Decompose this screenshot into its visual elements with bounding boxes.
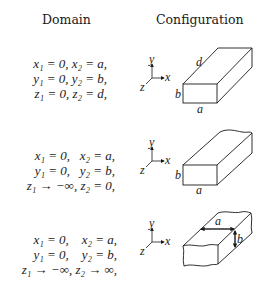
- y-axis-label: y: [148, 216, 155, 230]
- axes-icon-2: [146, 147, 164, 167]
- axes-icon-1: [146, 64, 164, 84]
- label-d: d: [196, 55, 203, 69]
- z-axis-label: z: [139, 244, 145, 258]
- label-a: a: [196, 183, 202, 197]
- semi-infinite-box-diagram: [183, 130, 252, 185]
- y-axis-label: y: [148, 52, 155, 66]
- axes-icon-3: [146, 228, 164, 248]
- x-axis-label: x: [164, 70, 171, 84]
- finite-box-diagram: [183, 48, 252, 103]
- label-b: b: [237, 232, 243, 246]
- configuration-diagrams: y x z d b a y x z b a y x z: [0, 0, 267, 281]
- label-b: b: [175, 168, 181, 182]
- y-axis-label: y: [148, 135, 155, 149]
- label-b: b: [175, 87, 181, 101]
- label-a: a: [197, 102, 203, 116]
- z-axis-label: z: [139, 163, 145, 177]
- label-a: a: [215, 214, 221, 228]
- z-axis-label: z: [139, 80, 145, 94]
- x-axis-label: x: [164, 153, 171, 167]
- x-axis-label: x: [164, 234, 171, 248]
